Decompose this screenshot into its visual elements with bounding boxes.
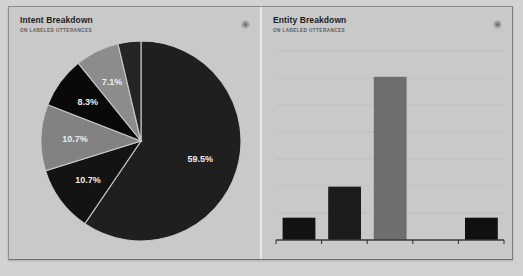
intent-pie-chart-container: 59.5%10.7%10.7%8.3%7.1%: [9, 35, 262, 257]
pie-slice-label: 59.5%: [188, 154, 214, 164]
intent-panel-subtitle: ON LABELED UTTERANCES: [20, 27, 250, 35]
bar[interactable]: [283, 218, 316, 240]
intent-panel-title: Intent Breakdown: [20, 15, 250, 25]
bar[interactable]: [328, 187, 361, 240]
pie-slice-label: 10.7%: [62, 134, 88, 144]
intent-pie-chart: 59.5%10.7%10.7%8.3%7.1%: [41, 35, 241, 247]
entity-bar-chart-container: [262, 33, 512, 257]
bar-group: [283, 77, 508, 240]
bar[interactable]: [465, 218, 498, 240]
intent-breakdown-panel: Intent Breakdown ON LABELED UTTERANCES 5…: [9, 7, 262, 259]
axis-group: [276, 240, 504, 244]
pie-slice-label: 7.1%: [102, 77, 123, 87]
analytics-widget-frame: Intent Breakdown ON LABELED UTTERANCES 5…: [8, 6, 513, 260]
pie-slice-label: 10.7%: [75, 175, 101, 185]
entity-panel-title: Entity Breakdown: [273, 15, 502, 25]
bar[interactable]: [374, 77, 407, 240]
info-icon[interactable]: [493, 20, 502, 29]
entity-bar-chart: [270, 33, 508, 253]
entity-breakdown-panel: Entity Breakdown ON LABELED UTTERANCES: [262, 7, 512, 259]
pie-slice-label: 8.3%: [77, 97, 98, 107]
info-icon[interactable]: [241, 20, 250, 29]
